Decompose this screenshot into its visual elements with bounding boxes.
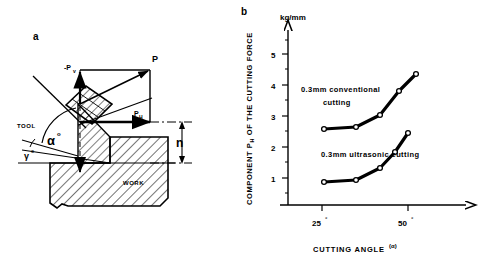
label-vertical-force: -P xyxy=(64,64,71,71)
panel-letter-a: a xyxy=(33,31,39,42)
data-point xyxy=(378,166,383,171)
data-point xyxy=(322,127,327,132)
y-tick-label-3: 3 xyxy=(271,113,276,122)
series-conventional-label-line1: 0.3mm conventional xyxy=(301,85,380,94)
x-tick-label-25: 25 xyxy=(312,219,321,228)
label-resultant-force: P xyxy=(152,54,158,64)
x-tick-label-50-degree: ° xyxy=(411,216,414,222)
x-axis-ticks xyxy=(322,205,408,211)
label-rake-angle-sup: o xyxy=(57,131,61,137)
label-depth-n: n xyxy=(176,136,183,150)
resultant-force-arrow xyxy=(80,71,148,104)
y-tick-label-1: 1 xyxy=(271,175,276,184)
x-tick-labels: 25 ° 50 ° xyxy=(312,216,414,228)
x-axis-title-unit: (α) xyxy=(389,243,397,249)
y-axis-title-part2: OF THE CUTTING FORCE xyxy=(245,32,254,138)
y-axis-title-part1: COMPONENT P xyxy=(245,143,254,205)
label-work: WORK xyxy=(123,180,144,186)
data-point xyxy=(322,180,327,185)
label-clearance-angle: γ xyxy=(24,151,29,161)
data-point xyxy=(414,72,419,77)
svg-text:COMPONENT PH OF THE CUTTING FO: COMPONENT PH OF THE CUTTING FORCE xyxy=(245,32,255,205)
series-ultrasonic-label: 0.3mm ultrasonic cutting xyxy=(321,150,419,159)
data-point xyxy=(406,131,411,136)
y-tick-label-4: 4 xyxy=(271,82,276,91)
label-tool: TOOL xyxy=(17,123,36,129)
data-point xyxy=(354,178,359,183)
label-rake-angle: α xyxy=(47,133,55,148)
y-axis-major-ticks xyxy=(282,54,288,178)
data-point xyxy=(397,89,402,94)
x-tick-label-25-degree: ° xyxy=(325,216,328,222)
series-conventional-label-line2: cutting xyxy=(323,98,351,107)
panel-letter-b: b xyxy=(241,6,247,17)
figure-root: a xyxy=(0,0,479,261)
label-vertical-force-sub: v xyxy=(73,68,76,74)
cutting-force-chart-svg: 1 2 3 4 5 25 ° 50 ° kg/mm COMPONENT PH O… xyxy=(238,0,479,261)
y-tick-labels: 1 2 3 4 5 xyxy=(271,51,276,184)
data-point xyxy=(354,125,359,130)
y-axis-title: COMPONENT PH OF THE CUTTING FORCE xyxy=(245,32,255,205)
label-horizontal-force-sub: H xyxy=(139,114,143,120)
data-point xyxy=(378,113,383,118)
panel-a-diagram: a xyxy=(0,0,240,261)
label-clearance-angle-sup: o xyxy=(31,148,34,154)
panel-b-chart: b xyxy=(238,0,479,261)
y-tick-label-2: 2 xyxy=(271,144,276,153)
x-axis-title: CUTTING ANGLE xyxy=(313,245,385,254)
x-tick-label-50: 50 xyxy=(398,219,407,228)
y-axis-unit-label: kg/mm xyxy=(280,13,306,22)
y-tick-label-5: 5 xyxy=(271,51,276,60)
